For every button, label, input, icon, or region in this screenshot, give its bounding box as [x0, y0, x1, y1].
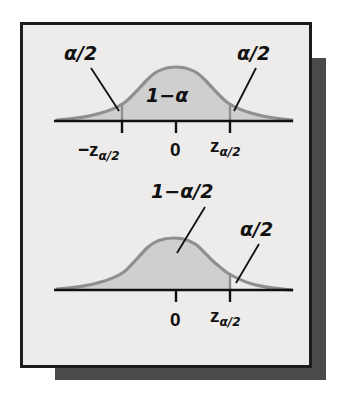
top-left-leader-line	[91, 68, 119, 111]
bottom-tick-label-right: zα/2	[210, 305, 240, 329]
bottom-right-alpha-label: α/2	[240, 218, 273, 240]
distribution-diagram: α/2 α/2 1−α −zα/2 0 zα/2	[0, 0, 346, 402]
bottom-tick-label-mid: 0	[170, 309, 181, 330]
top-chart-group: α/2 α/2 1−α −zα/2 0 zα/2	[54, 42, 293, 163]
top-tick-label-right: zα/2	[210, 135, 240, 159]
top-left-alpha-label: α/2	[64, 42, 97, 64]
bottom-curve-shaded-area	[57, 238, 230, 290]
top-tick-label-mid: 0	[170, 139, 181, 160]
top-right-alpha-label: α/2	[237, 42, 270, 64]
bottom-center-confidence-label: 1−α/2	[151, 180, 213, 202]
top-right-leader-line	[234, 68, 256, 111]
top-center-confidence-label: 1−α	[146, 84, 189, 106]
bottom-chart-group: 1−α/2 α/2 0 zα/2	[54, 180, 293, 330]
top-tick-label-left: −zα/2	[78, 139, 120, 163]
bottom-right-leader-line	[236, 244, 259, 283]
figure-stage: α/2 α/2 1−α −zα/2 0 zα/2	[0, 0, 346, 402]
